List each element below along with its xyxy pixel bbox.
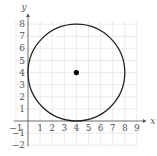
y-tick-label: 7: [19, 31, 25, 41]
y-tick-label: 4: [19, 68, 25, 78]
y-tick-label: −1: [12, 128, 25, 138]
x-tick-label: 4: [74, 123, 80, 133]
center-point: [74, 70, 79, 75]
y-axis-arrow-icon: [26, 13, 30, 17]
x-tick-label: 3: [61, 123, 67, 133]
y-tick-label: 3: [19, 80, 25, 90]
y-tick-label: 2: [19, 92, 25, 102]
x-axis-arrow-icon: [143, 119, 147, 123]
y-tick-label: 1: [19, 104, 25, 114]
x-tick-label: 8: [122, 123, 128, 133]
circle-graph: xy−112345678987654321−1−2: [0, 0, 157, 156]
y-tick-label: 6: [19, 43, 25, 53]
y-tick-label: 5: [19, 56, 25, 66]
x-tick-label: 5: [86, 123, 92, 133]
x-tick-label: 1: [37, 123, 43, 133]
x-axis-label: x: [150, 116, 155, 126]
y-tick-label: 8: [19, 19, 25, 29]
y-tick-label: −2: [12, 140, 25, 150]
x-tick-label: 2: [49, 123, 55, 133]
x-tick-label: 6: [98, 123, 104, 133]
y-axis-label: y: [20, 2, 27, 12]
x-tick-label: 9: [134, 123, 140, 133]
x-tick-label: 7: [110, 123, 116, 133]
